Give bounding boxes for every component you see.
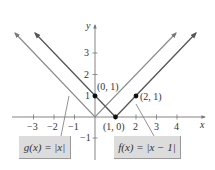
point-label-2-1: (2, 1) bbox=[140, 92, 162, 102]
y-axis-label: y bbox=[86, 21, 90, 31]
point-1-0 bbox=[113, 115, 118, 120]
point-0-1 bbox=[93, 94, 98, 99]
tick-y-1: 1 bbox=[85, 91, 90, 101]
tick-x-neg1: −1 bbox=[68, 122, 79, 132]
f-leader bbox=[136, 104, 154, 136]
tick-y-3: 3 bbox=[84, 48, 89, 58]
f-curve bbox=[35, 33, 196, 117]
tick-x-3: 3 bbox=[154, 122, 159, 132]
tick-y-neg1: −1 bbox=[80, 133, 91, 143]
tick-x-neg3: −3 bbox=[27, 122, 38, 132]
point-2-1 bbox=[134, 94, 139, 99]
tick-y-2: 2 bbox=[84, 70, 89, 80]
tick-x-4: 4 bbox=[174, 122, 179, 132]
point-label-0-1: (0, 1) bbox=[97, 82, 119, 92]
tick-x-2: 2 bbox=[133, 122, 138, 132]
f-function-label: f(x) = |x − 1| bbox=[114, 136, 181, 159]
x-axis-label: x bbox=[200, 120, 204, 130]
g-function-label: g(x) = |x| bbox=[19, 136, 71, 159]
g-curve bbox=[15, 33, 176, 117]
tick-x-neg2: −2 bbox=[47, 122, 58, 132]
point-label-1-0: (1, 0) bbox=[103, 122, 125, 132]
